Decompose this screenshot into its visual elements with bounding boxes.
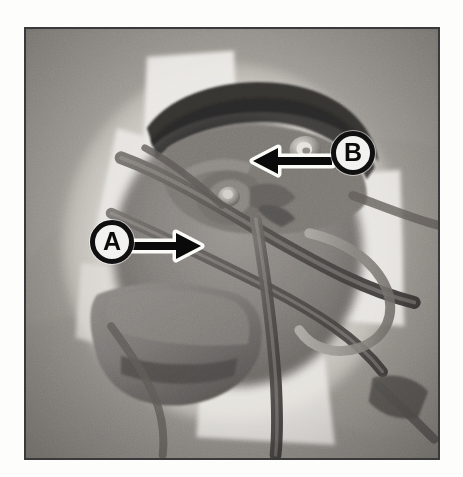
callout-marker-a[interactable]: A xyxy=(90,220,134,264)
photograph-frame: A B xyxy=(24,27,440,460)
callout-label-a: A xyxy=(103,229,121,254)
callout-marker-b[interactable]: B xyxy=(331,131,375,175)
figure-root: A B xyxy=(0,0,463,477)
photograph-image xyxy=(26,29,438,458)
callout-label-b: B xyxy=(344,140,362,165)
